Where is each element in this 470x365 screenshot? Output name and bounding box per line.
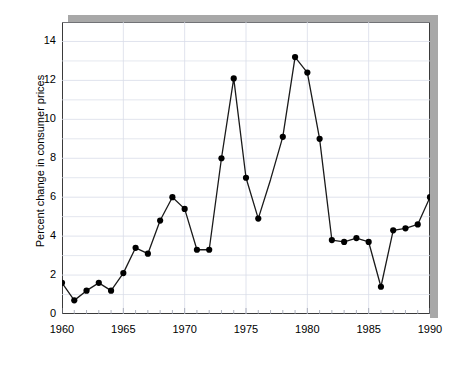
- y-tick-label: 14: [28, 34, 56, 46]
- x-tick-label: 1965: [103, 323, 143, 335]
- x-tick-label: 1970: [165, 323, 205, 335]
- y-tick-label: 10: [28, 112, 56, 124]
- y-tick-label: 4: [28, 229, 56, 241]
- x-tick-label: 1985: [349, 323, 389, 335]
- chart-figure: Percent change in consumer prices 024681…: [0, 0, 470, 365]
- x-tick-label: 1980: [287, 323, 327, 335]
- plot-canvas: [62, 22, 430, 314]
- y-tick-label: 8: [28, 151, 56, 163]
- y-tick-label: 6: [28, 190, 56, 202]
- x-tick-label: 1960: [42, 323, 82, 335]
- y-tick-label: 2: [28, 268, 56, 280]
- x-tick-label: 1975: [226, 323, 266, 335]
- y-tick-label: 0: [28, 307, 56, 319]
- grid-lines-x: [123, 22, 368, 314]
- axis-ticks: [62, 308, 430, 314]
- y-tick-label: 12: [28, 73, 56, 85]
- plot-shadow-right: [430, 15, 438, 318]
- x-tick-label: 1990: [410, 323, 450, 335]
